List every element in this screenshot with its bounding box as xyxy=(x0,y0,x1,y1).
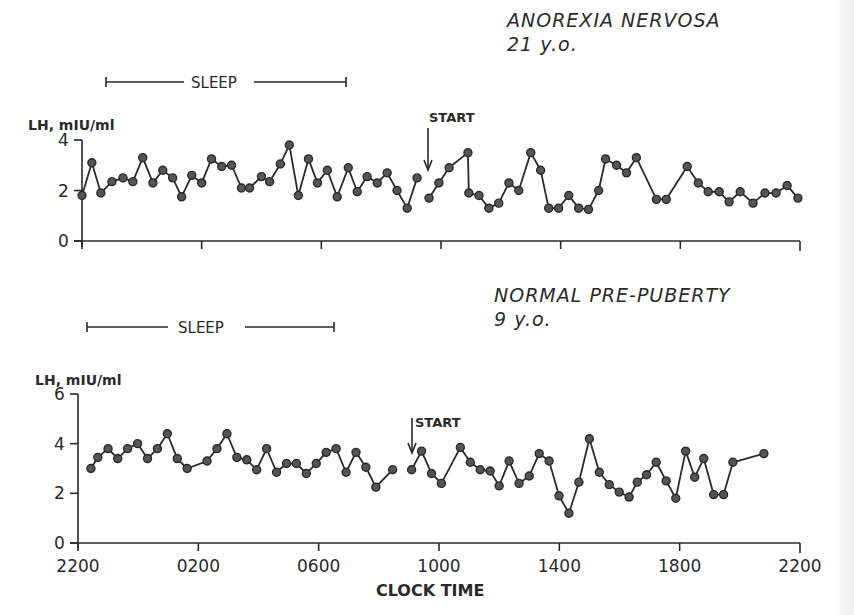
data-point xyxy=(525,472,533,480)
data-point xyxy=(408,466,416,474)
data-point xyxy=(427,469,435,477)
data-point xyxy=(237,184,245,192)
y-tick-labels: 0246 xyxy=(54,384,65,553)
data-point xyxy=(203,457,211,465)
chart-title: NORMAL PRE-PUBERTY xyxy=(494,284,731,306)
data-point xyxy=(393,187,401,195)
data-point xyxy=(373,179,381,187)
data-point xyxy=(615,488,623,496)
data-point xyxy=(114,455,122,463)
data-point xyxy=(794,194,802,202)
x-tick-label: 2200 xyxy=(778,556,821,576)
data-point xyxy=(545,457,553,465)
data-point xyxy=(333,193,341,201)
data-point xyxy=(228,161,236,169)
chart-anorexia-nervosa: ANOREXIA NERVOSA 21 y.o. SLEEP LH, mIU/m… xyxy=(28,9,802,251)
data-point xyxy=(292,460,300,468)
x-tick-label: 1800 xyxy=(658,556,701,576)
y-tick-label: 4 xyxy=(54,434,65,454)
data-point xyxy=(413,174,421,182)
data-point xyxy=(163,430,171,438)
data-point xyxy=(505,457,513,465)
y-tick-label: 0 xyxy=(58,231,69,251)
data-point xyxy=(149,179,157,187)
data-point xyxy=(418,447,426,455)
data-point xyxy=(352,448,360,456)
data-point xyxy=(108,178,116,186)
data-point xyxy=(253,466,261,474)
data-point xyxy=(535,450,543,458)
data-point xyxy=(515,187,523,195)
start-marker: START xyxy=(424,110,475,170)
data-point xyxy=(372,483,380,491)
data-point xyxy=(243,456,251,464)
data-point xyxy=(537,166,545,174)
data-point xyxy=(545,204,553,212)
data-point xyxy=(495,482,503,490)
data-point xyxy=(694,179,702,187)
data-point xyxy=(565,509,573,517)
x-tick-label: 0200 xyxy=(177,556,220,576)
data-point xyxy=(134,440,142,448)
data-point xyxy=(276,160,284,168)
data-point xyxy=(527,149,535,157)
data-point xyxy=(515,479,523,487)
data-point xyxy=(78,192,86,200)
start-label: START xyxy=(429,110,475,125)
data-point xyxy=(159,166,167,174)
data-point xyxy=(94,453,102,461)
data-point xyxy=(555,204,563,212)
data-point xyxy=(342,468,350,476)
data-point xyxy=(643,471,651,479)
data-point xyxy=(233,453,241,461)
data-point xyxy=(97,189,105,197)
data-point xyxy=(772,189,780,197)
data-point xyxy=(700,455,708,463)
data-point xyxy=(710,491,718,499)
data-point xyxy=(466,458,474,466)
data-point xyxy=(575,478,583,486)
data-point xyxy=(662,195,670,203)
data-point xyxy=(435,179,443,187)
data-point xyxy=(389,466,397,474)
y-tick-labels: 024 xyxy=(58,130,69,251)
series-line-segment-2 xyxy=(412,439,764,514)
data-point xyxy=(178,193,186,201)
data-point xyxy=(464,149,472,157)
sleep-bracket: SLEEP xyxy=(87,319,334,337)
data-point xyxy=(266,178,274,186)
data-point xyxy=(622,169,630,177)
data-point xyxy=(304,155,312,163)
data-point xyxy=(437,479,445,487)
y-axis-label: LH, mIU/ml xyxy=(28,117,115,133)
data-point xyxy=(760,450,768,458)
data-point xyxy=(725,198,733,206)
y-tick-label: 2 xyxy=(58,181,69,201)
data-point xyxy=(312,460,320,468)
data-point xyxy=(143,455,151,463)
data-point xyxy=(188,171,196,179)
data-point xyxy=(282,460,290,468)
data-point xyxy=(344,164,352,172)
data-point xyxy=(332,445,340,453)
x-tick-label: 2200 xyxy=(56,556,99,576)
data-point xyxy=(682,447,690,455)
data-point xyxy=(672,494,680,502)
series xyxy=(78,141,802,213)
data-point xyxy=(652,458,660,466)
data-point xyxy=(124,445,132,453)
start-label: START xyxy=(415,415,461,430)
data-point xyxy=(445,164,453,172)
y-axis-label: LH, mIU/ml xyxy=(35,372,122,388)
data-point xyxy=(119,174,127,182)
page-edge-shadow xyxy=(832,0,854,615)
data-point xyxy=(625,493,633,501)
data-point xyxy=(273,468,281,476)
data-point xyxy=(313,179,321,187)
data-point xyxy=(169,174,177,182)
data-point xyxy=(691,473,699,481)
data-point xyxy=(302,469,310,477)
chart-subtitle: 9 y.o. xyxy=(494,308,552,330)
figure: ANOREXIA NERVOSA 21 y.o. SLEEP LH, mIU/m… xyxy=(0,0,854,615)
data-point xyxy=(555,492,563,500)
